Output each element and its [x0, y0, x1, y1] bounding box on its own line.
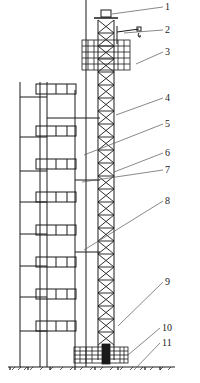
label-2: 2 [165, 25, 170, 35]
lattice-mast [98, 20, 114, 360]
ground-line [8, 367, 175, 370]
wall-ties [47, 118, 100, 252]
label-11: 11 [162, 338, 172, 348]
label-9: 9 [165, 277, 170, 287]
label-8: 8 [165, 196, 170, 206]
floor-lines [20, 97, 47, 331]
label-5: 5 [165, 119, 170, 129]
label-1: 1 [165, 2, 170, 12]
label-7: 7 [165, 165, 170, 175]
label-3: 3 [165, 47, 170, 57]
label-6: 6 [165, 148, 170, 158]
label-10: 10 [162, 323, 172, 333]
base-block [74, 344, 128, 364]
top-jib [117, 26, 141, 44]
label-4: 4 [165, 93, 170, 103]
balcony-rails [36, 84, 76, 331]
mast-bracing [98, 20, 114, 345]
